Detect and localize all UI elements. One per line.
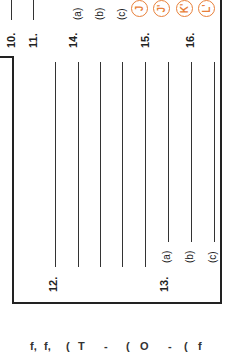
footer-fragment: f <box>198 340 202 352</box>
box-left-border <box>12 56 14 304</box>
footer-fragment: f, <box>44 340 51 352</box>
footer-fragment: ( <box>66 340 70 352</box>
footer-fragment: T <box>78 340 85 352</box>
question-13-label: 13. <box>158 277 170 292</box>
answer-line-12b[interactable] <box>78 62 79 267</box>
answer-line-12c[interactable] <box>100 62 101 267</box>
footer-fragment: - <box>168 340 172 352</box>
question-14c-label: (c) <box>116 8 128 20</box>
footer-fragment: O <box>140 340 149 352</box>
question-13c-label: (c) <box>207 251 219 263</box>
circled-answer-j[interactable]: J <box>131 0 148 17</box>
box-right-border <box>220 0 222 304</box>
question-14b-label: (b) <box>94 8 106 20</box>
footer-fragment: ( <box>126 340 130 352</box>
circled-answer-j-prime[interactable]: J' <box>153 0 170 17</box>
question-15-label: 15. <box>139 33 151 48</box>
answer-line-11[interactable] <box>33 0 34 20</box>
circled-answer-k-prime[interactable]: K' <box>176 0 193 17</box>
footer-fragment: f, <box>30 340 37 352</box>
answer-line-12d[interactable] <box>122 62 123 267</box>
footer-fragment: ( <box>184 340 188 352</box>
question-13b-label: (b) <box>184 251 196 263</box>
question-13a-label: (a) <box>161 251 173 263</box>
answer-line-13c[interactable] <box>214 62 215 242</box>
footer-fragment: - <box>104 340 108 352</box>
question-10-label: 10. <box>5 33 17 48</box>
answer-line-13a[interactable] <box>168 62 169 242</box>
answer-line-12e[interactable] <box>145 62 146 267</box>
question-16-label: 16. <box>184 33 196 48</box>
answer-line-10[interactable] <box>11 0 12 20</box>
question-14-label: 14. <box>67 33 79 48</box>
circled-answer-l-prime[interactable]: L' <box>198 0 215 17</box>
question-14a-label: (a) <box>72 8 84 20</box>
question-11-label: 11. <box>27 33 39 48</box>
box-bottom-border <box>12 302 222 304</box>
answer-line-12[interactable] <box>55 62 56 267</box>
answer-line-13b[interactable] <box>191 62 192 242</box>
question-12-label: 12. <box>47 277 59 292</box>
